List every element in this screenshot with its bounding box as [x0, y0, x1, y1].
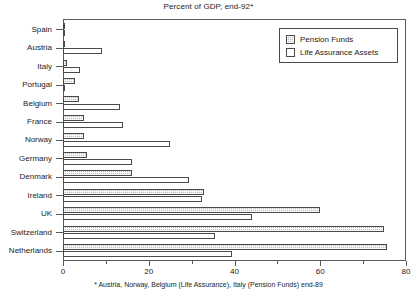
bar-group-switzerland — [63, 223, 406, 241]
y-tick-mark — [56, 214, 63, 215]
x-tick-label: 20 — [144, 267, 153, 276]
y-tick-mark — [56, 103, 63, 104]
bar-chart: Percent of GDP, end-92* SpainAustriaItal… — [0, 0, 417, 294]
x-tick-mark — [63, 261, 64, 266]
y-tick-mark — [56, 232, 63, 233]
x-tick-mark — [320, 261, 321, 266]
y-label-germany: Germany — [0, 149, 61, 167]
pension-funds-swatch-icon — [286, 35, 295, 44]
y-tick-mark — [56, 66, 63, 67]
chart-legend: Pension Funds Life Assurance Assets — [279, 28, 398, 63]
bar-group-norway — [63, 131, 406, 149]
x-tick-mark-minor — [363, 261, 364, 264]
bar-group-denmark — [63, 168, 406, 186]
legend-item-life-assurance-assets: Life Assurance Assets — [286, 46, 397, 59]
chart-footnote: * Austria, Norway, Belgium (Life Assuran… — [0, 281, 417, 288]
y-tick-mark — [56, 29, 63, 30]
bar-group-france — [63, 112, 406, 130]
bar-life-uk — [63, 214, 252, 220]
bar-pension-italy — [63, 60, 67, 66]
y-label-switzerland: Switzerland — [0, 223, 61, 241]
bar-life-italy — [63, 67, 80, 73]
x-tick-label: 80 — [402, 267, 411, 276]
y-label-france: France — [0, 112, 61, 130]
y-label-norway: Norway — [0, 131, 61, 149]
y-tick-mark — [56, 140, 63, 141]
bar-group-ireland — [63, 186, 406, 204]
y-tick-mark — [56, 85, 63, 86]
life-assurance-swatch-icon — [286, 48, 295, 57]
y-label-netherlands: Netherlands — [0, 241, 61, 259]
bar-life-france — [63, 122, 123, 128]
bar-pension-austria — [63, 41, 65, 47]
bar-pension-uk — [63, 207, 320, 213]
x-tick-label: 40 — [230, 267, 239, 276]
bar-life-belgium — [63, 104, 120, 110]
bar-group-uk — [63, 205, 406, 223]
bar-life-spain — [63, 30, 65, 36]
bar-pension-ireland — [63, 189, 204, 195]
y-axis-category-labels: SpainAustriaItalyPortugalBelgiumFranceNo… — [0, 20, 61, 260]
bar-group-germany — [63, 149, 406, 167]
bar-life-switzerland — [63, 233, 215, 239]
y-label-uk: UK — [0, 205, 61, 223]
bar-life-germany — [63, 159, 132, 165]
y-tick-mark — [56, 48, 63, 49]
bar-group-portugal — [63, 75, 406, 93]
x-tick-mark-minor — [277, 261, 278, 264]
bar-group-netherlands — [63, 241, 406, 259]
y-tick-mark — [56, 122, 63, 123]
y-label-italy: Italy — [0, 57, 61, 75]
bar-pension-netherlands — [63, 244, 387, 250]
bar-life-austria — [63, 48, 102, 54]
bar-pension-france — [63, 115, 84, 121]
bar-pension-norway — [63, 133, 84, 139]
y-label-austria: Austria — [0, 38, 61, 56]
bar-life-denmark — [63, 177, 189, 183]
y-tick-mark — [56, 195, 63, 196]
bar-pension-belgium — [63, 96, 79, 102]
bar-life-portugal — [63, 85, 65, 91]
bar-life-ireland — [63, 196, 202, 202]
y-label-denmark: Denmark — [0, 168, 61, 186]
y-tick-mark — [56, 158, 63, 159]
x-tick-label: 0 — [61, 267, 65, 276]
bar-group-belgium — [63, 94, 406, 112]
bar-pension-denmark — [63, 170, 132, 176]
y-label-portugal: Portugal — [0, 75, 61, 93]
legend-item-pension-funds: Pension Funds — [286, 33, 397, 46]
x-tick-mark — [406, 261, 407, 266]
bar-life-netherlands — [63, 251, 232, 257]
x-tick-mark — [235, 261, 236, 266]
bar-life-norway — [63, 141, 170, 147]
legend-label-pension-funds: Pension Funds — [300, 35, 353, 44]
y-tick-mark — [56, 177, 63, 178]
bar-pension-spain — [63, 23, 65, 29]
x-tick-label: 60 — [316, 267, 325, 276]
bar-pension-switzerland — [63, 226, 384, 232]
y-tick-mark — [56, 251, 63, 252]
bar-pension-germany — [63, 152, 87, 158]
legend-label-life-assurance-assets: Life Assurance Assets — [300, 48, 378, 57]
chart-title: Percent of GDP, end-92* — [0, 2, 417, 11]
y-label-belgium: Belgium — [0, 94, 61, 112]
x-tick-mark-minor — [106, 261, 107, 264]
y-label-ireland: Ireland — [0, 186, 61, 204]
bar-pension-portugal — [63, 78, 75, 84]
y-label-spain: Spain — [0, 20, 61, 38]
x-tick-mark — [149, 261, 150, 266]
x-tick-mark-minor — [192, 261, 193, 264]
